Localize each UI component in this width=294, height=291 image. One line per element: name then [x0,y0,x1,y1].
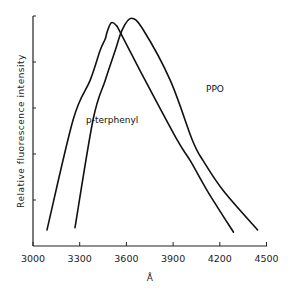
label-p-terphenyl: p-terphenyl [86,115,138,125]
x-tick-label: 4500 [254,253,278,264]
x-ticks: 300033003600390042004500 [21,242,279,264]
fluorescence-chart: 300033003600390042004500 PPO p-terphenyl… [0,0,294,291]
axes [33,16,267,246]
curve-p-terphenyl [47,23,234,233]
series [47,18,258,232]
x-tick-label: 3000 [21,253,45,264]
x-axis-title: Å [147,272,154,283]
x-tick-label: 3900 [161,253,185,264]
label-ppo: PPO [206,84,224,94]
x-tick-label: 3600 [114,253,138,264]
x-tick-label: 3300 [68,253,92,264]
y-axis-title: Relative fluorescence intensity [16,54,26,208]
x-tick-label: 4200 [208,253,232,264]
